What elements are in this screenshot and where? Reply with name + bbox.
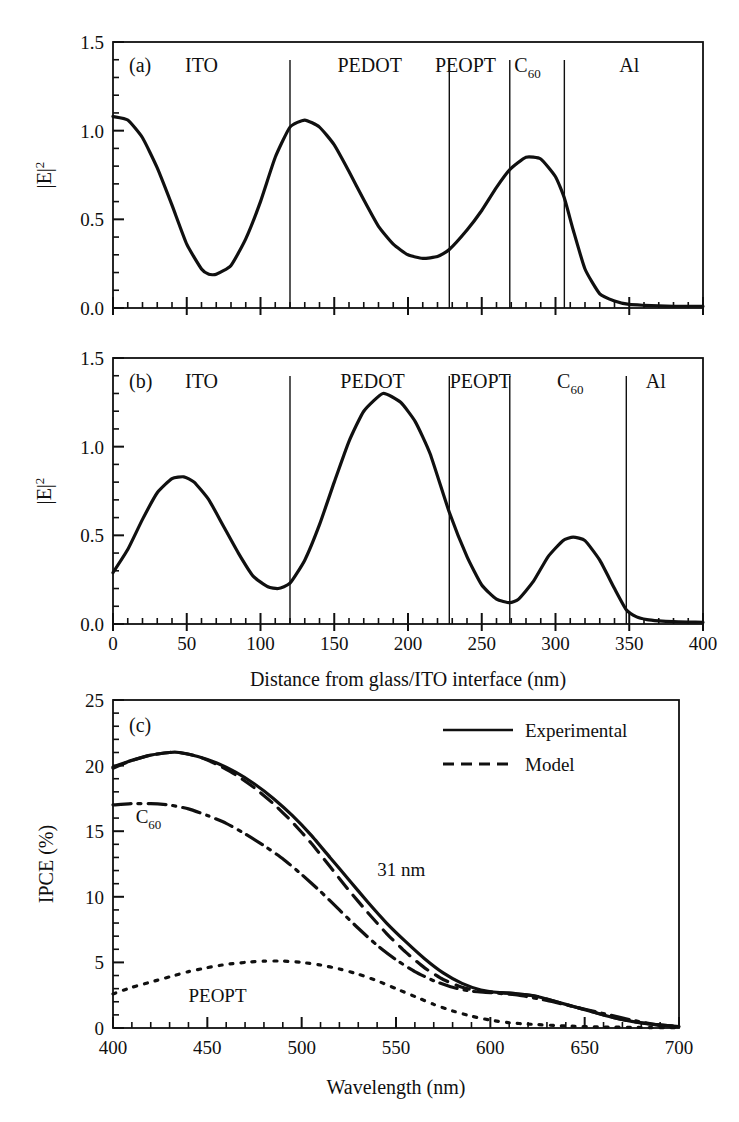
x-tick-label-c-3: 550: [382, 1037, 411, 1058]
panel-label-b: (b): [129, 370, 152, 393]
y-tick-label-c-4: 20: [85, 756, 104, 777]
layer-label-a-1: PEDOT: [337, 54, 401, 76]
y-tick-label-c-2: 10: [85, 887, 104, 908]
y-tick-label-c-1: 5: [95, 952, 105, 973]
y-tick-label-b-1: 0.5: [80, 525, 104, 546]
x-tick-label-b-4: 200: [394, 633, 423, 654]
legend-label-0: Experimental: [525, 720, 627, 741]
x-tick-label-b-0: 0: [108, 633, 118, 654]
y-tick-label-a-2: 1.0: [80, 121, 104, 142]
legend-label-1: Model: [525, 754, 575, 775]
y-tick-label-a-0: 0.0: [80, 298, 104, 319]
x-tick-label-b-6: 300: [541, 633, 570, 654]
annotation-c-2: PEOPT: [188, 985, 246, 1006]
x-tick-label-c-2: 500: [287, 1037, 316, 1058]
figure-svg: 0.00.51.01.5(a)ITOPEDOTPEOPTC60Al|E|20.0…: [0, 0, 739, 1122]
panel-label-a: (a): [129, 54, 151, 77]
y-tick-label-b-0: 0.0: [80, 614, 104, 635]
y-tick-label-b-3: 1.5: [80, 348, 104, 369]
layer-label-b-0: ITO: [185, 370, 218, 392]
x-tick-label-b-1: 50: [177, 633, 196, 654]
y-axis-title-c: IPCE (%): [35, 825, 58, 903]
panel-c: 0510152025400450500550600650700(c)31 nmC…: [35, 690, 693, 1099]
x-tick-label-c-5: 650: [570, 1037, 599, 1058]
curve-a-0: [113, 116, 703, 306]
layer-label-a-0: ITO: [185, 54, 218, 76]
x-tick-label-c-0: 400: [99, 1037, 128, 1058]
layer-label-a-3: C60: [514, 54, 540, 81]
figure-root: 0.00.51.01.5(a)ITOPEDOTPEOPTC60Al|E|20.0…: [0, 0, 739, 1122]
annotation-c-0: 31 nm: [377, 859, 425, 880]
layer-label-b-1: PEDOT: [340, 370, 404, 392]
x-tick-label-c-6: 700: [665, 1037, 694, 1058]
panel-label-c: (c): [129, 714, 151, 737]
x-axis-title-b: Distance from glass/ITO interface (nm): [250, 668, 566, 691]
layer-label-b-3: C60: [557, 370, 583, 397]
y-tick-label-c-5: 25: [85, 690, 104, 711]
x-tick-label-b-7: 350: [615, 633, 644, 654]
x-tick-label-b-3: 150: [320, 633, 349, 654]
y-tick-label-c-0: 0: [95, 1018, 105, 1039]
x-tick-label-b-2: 100: [246, 633, 275, 654]
x-axis-title-c: Wavelength (nm): [327, 1076, 466, 1099]
panel-a: 0.00.51.01.5(a)ITOPEDOTPEOPTC60Al|E|2: [32, 32, 703, 319]
layer-label-a-2: PEOPT: [435, 54, 496, 76]
layer-label-b-4: Al: [646, 370, 666, 392]
x-tick-label-b-8: 400: [689, 633, 718, 654]
x-tick-label-b-5: 250: [468, 633, 497, 654]
panel-b: 0.00.51.01.5050100150200250300350400(b)I…: [32, 348, 717, 691]
y-axis-title-a: |E|2: [32, 162, 56, 189]
y-tick-label-c-3: 15: [85, 821, 104, 842]
y-tick-label-b-2: 1.0: [80, 437, 104, 458]
y-tick-label-a-1: 0.5: [80, 209, 104, 230]
x-tick-label-c-4: 600: [476, 1037, 505, 1058]
curve-b-0: [113, 393, 703, 622]
y-tick-label-a-3: 1.5: [80, 32, 104, 53]
layer-label-b-2: PEOPT: [450, 370, 511, 392]
x-tick-label-c-1: 450: [193, 1037, 222, 1058]
annotation-c-1: C60: [136, 806, 162, 832]
layer-label-a-4: Al: [619, 54, 639, 76]
y-axis-title-b: |E|2: [32, 478, 56, 505]
